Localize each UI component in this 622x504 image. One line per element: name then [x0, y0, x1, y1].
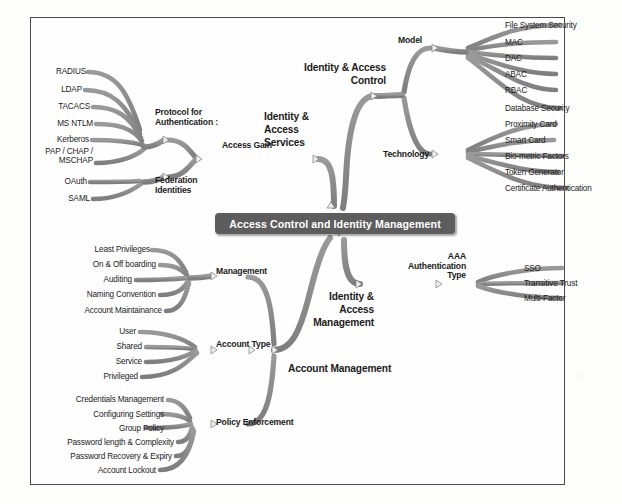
leaf-bio-metric-factors[interactable]: Bio-metric Factors [505, 152, 617, 161]
branch-identity-access-control[interactable]: Identity & Access Control [262, 62, 386, 88]
leaf-rbac[interactable]: RBAC [505, 86, 617, 95]
leaf-group-policy[interactable]: Group Policy [56, 424, 164, 433]
leaf-database-security[interactable]: Database Security [505, 104, 617, 113]
node-federation-identities[interactable]: Federation Identities [155, 176, 235, 195]
leaf-abac[interactable]: ABAC [505, 70, 617, 79]
mindmap-canvas: Access Control and Identity Management R… [0, 0, 622, 504]
leaf-ms-ntlm[interactable]: MS NTLM [4, 119, 93, 128]
branch-account-management[interactable]: Account Management [288, 363, 448, 376]
node-protocol-for-authentication[interactable]: Protocol for Authentication : [155, 108, 245, 127]
leaf-multi-factor[interactable]: Multi-Factor [524, 294, 620, 303]
leaf-password-recovery-expiry[interactable]: Password Recovery & Expiry [22, 452, 172, 461]
leaf-least-privileges[interactable]: Least Privileges [58, 245, 150, 254]
leaf-account-lockout[interactable]: Account Lockout [52, 466, 156, 475]
leaf-tacacs[interactable]: TACACS [4, 102, 90, 111]
scan-artifact-mark: :: [578, 372, 584, 379]
node-model[interactable]: Model [398, 36, 448, 46]
center-node[interactable]: Access Control and Identity Management [215, 213, 455, 234]
leaf-certificate-authentication[interactable]: Certificate Authentication [505, 184, 621, 193]
leaf-smart-card[interactable]: Smart Card [505, 136, 617, 145]
leaf-oauth[interactable]: OAuth [4, 177, 87, 186]
leaf-file-system-security[interactable]: File System Security [505, 21, 617, 30]
node-management[interactable]: Management [216, 267, 296, 277]
leaf-mac[interactable]: MAC [505, 38, 617, 47]
leaf-account-maintainance[interactable]: Account Maintainance [36, 306, 162, 315]
node-aaa-authentication-type[interactable]: AAA Authentication Type [388, 252, 466, 281]
leaf-kerberos[interactable]: Kerberos [4, 135, 89, 144]
branch-identity-access-services[interactable]: Identity & Access Services [264, 111, 334, 149]
leaf-ldap[interactable]: LDAP [4, 85, 82, 94]
leaf-naming-convention[interactable]: Naming Convention [42, 290, 156, 299]
leaf-radius[interactable]: RADIUS [4, 67, 86, 76]
leaf-proximity-card[interactable]: Proximity Card [505, 120, 617, 129]
leaf-sso[interactable]: SSO [524, 264, 620, 273]
leaf-on-off-boarding[interactable]: On & Off boarding [50, 260, 156, 269]
node-policy-enforcement[interactable]: Policy Enforcement [216, 418, 326, 428]
leaf-auditing[interactable]: Auditing [58, 275, 132, 284]
leaf-configuring-settings[interactable]: Configuring Settings [38, 410, 164, 419]
branch-identity-access-management[interactable]: Identity & Access Management [294, 291, 374, 329]
node-account-type[interactable]: Account Type [216, 340, 302, 350]
leaf-dac[interactable]: DAC [505, 54, 617, 63]
leaf-pap-chap-mschap[interactable]: PAP / CHAP / MSCHAP [4, 147, 93, 165]
leaf-saml[interactable]: SAML [4, 194, 90, 203]
leaf-shared[interactable]: Shared [70, 342, 142, 351]
leaf-user[interactable]: User [76, 327, 136, 336]
leaf-token-generator[interactable]: Token Generator [505, 168, 617, 177]
leaf-credentials-management[interactable]: Credentials Management [28, 395, 164, 404]
leaf-password-length-complexity[interactable]: Password length & Complexity [22, 438, 174, 447]
leaf-transitive-trust[interactable]: Transitive Trust [524, 279, 620, 288]
node-technology[interactable]: Technology [383, 150, 445, 160]
center-node-label: Access Control and Identity Management [229, 218, 441, 230]
leaf-privileged[interactable]: Privileged [64, 372, 138, 381]
leaf-service[interactable]: Service [70, 357, 142, 366]
